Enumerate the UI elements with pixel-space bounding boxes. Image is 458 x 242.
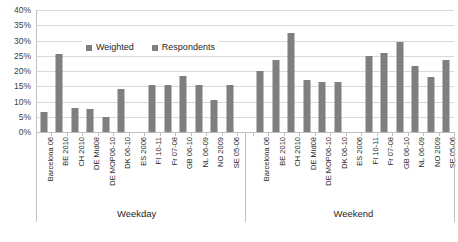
legend-label-respondents: Respondents xyxy=(162,43,215,52)
x-axis-category-label: BE 2010 xyxy=(279,135,287,203)
legend-swatch-respondents xyxy=(152,45,158,51)
bar xyxy=(288,33,295,132)
bar xyxy=(118,89,125,132)
bar xyxy=(365,56,372,132)
bar xyxy=(427,77,434,132)
bar-slot xyxy=(315,10,330,132)
x-axis-category-label: FI 10-11 xyxy=(372,135,380,203)
y-axis-tick-label: 40% xyxy=(14,6,31,14)
bar-slot xyxy=(113,10,128,132)
x-axis-category-label: DK 06-10 xyxy=(341,135,349,203)
bar-slot xyxy=(175,10,190,132)
y-axis-tick-label: 25% xyxy=(14,52,31,60)
x-axis-category-label: GB 06-10 xyxy=(403,135,411,203)
y-axis-line xyxy=(36,10,37,133)
bar xyxy=(226,85,233,132)
bar-slot xyxy=(346,10,361,132)
bar-slot xyxy=(268,10,283,132)
bar-slot xyxy=(408,10,423,132)
x-axis-group-label: Weekday xyxy=(77,208,197,219)
bar-slot xyxy=(36,10,51,132)
bar-slot xyxy=(361,10,376,132)
group-separator xyxy=(36,132,37,222)
bar-slot xyxy=(206,10,221,132)
y-axis-tick-label: 35% xyxy=(14,21,31,29)
y-axis-tick-label: 5% xyxy=(19,113,31,121)
plot-area xyxy=(36,10,454,132)
bar-slot xyxy=(392,10,407,132)
x-axis-category-label: NL 06-09 xyxy=(202,135,210,203)
bar-chart: 0%5%10%15%20%25%30%35%40% Barcelona 06BE… xyxy=(0,0,458,242)
bar xyxy=(149,85,156,132)
bar xyxy=(443,60,450,132)
x-axis-category-label: DE Mid08 xyxy=(310,135,318,203)
bar xyxy=(381,53,388,132)
bar xyxy=(211,100,218,132)
bar xyxy=(195,85,202,132)
bar-slot xyxy=(144,10,159,132)
y-axis-tick-label: 10% xyxy=(14,98,31,106)
x-axis-tick xyxy=(253,132,254,136)
y-axis-tick-label: 30% xyxy=(14,37,31,45)
x-axis-category-label: DE Mid08 xyxy=(93,135,101,203)
y-axis-tick-label: 20% xyxy=(14,67,31,75)
bar-slot xyxy=(377,10,392,132)
x-axis-category-label: NL 06-09 xyxy=(418,135,426,203)
x-axis-category-label: Fr 07-08 xyxy=(171,135,179,203)
x-axis-category-label: ES 2006 xyxy=(356,135,364,203)
bar xyxy=(164,85,171,132)
bar xyxy=(180,76,187,132)
bar-slot xyxy=(129,10,144,132)
y-axis-tick-label: 15% xyxy=(14,82,31,90)
bar xyxy=(303,80,310,132)
y-axis-tick-label: 0% xyxy=(19,128,31,136)
bar-slot xyxy=(284,10,299,132)
bar-slot xyxy=(98,10,113,132)
bar-series xyxy=(36,10,454,132)
bar-slot xyxy=(253,10,268,132)
legend-item-weighted: Weighted xyxy=(86,43,134,52)
bar xyxy=(40,112,47,132)
bar-slot xyxy=(160,10,175,132)
bar xyxy=(71,108,78,132)
x-axis-category-label: NO 2009 xyxy=(217,135,225,203)
bar xyxy=(56,54,63,132)
bar xyxy=(87,109,94,132)
legend-swatch-weighted xyxy=(86,45,92,51)
x-axis-category-label: GB 06-10 xyxy=(186,135,194,203)
bar-slot xyxy=(330,10,345,132)
x-axis-category-label: Barcelona 06 xyxy=(47,135,55,203)
bar xyxy=(102,117,109,132)
bar xyxy=(257,71,264,132)
bar xyxy=(412,66,419,132)
x-axis-category-label: ES 2006 xyxy=(140,135,148,203)
x-axis-category-label: Fr 07-08 xyxy=(387,135,395,203)
x-axis-category-label: BE 2010 xyxy=(62,135,70,203)
x-axis-category-label: CH 2010 xyxy=(78,135,86,203)
x-axis-category-label: FI 10-11 xyxy=(155,135,163,203)
x-axis-group-label: Weekend xyxy=(293,208,413,219)
x-axis-category-label: NO 2009 xyxy=(434,135,442,203)
bar-slot xyxy=(191,10,206,132)
x-axis-category-label: DE MOP06-10 xyxy=(109,135,117,203)
bar-slot xyxy=(67,10,82,132)
bar xyxy=(319,82,326,132)
legend-label-weighted: Weighted xyxy=(96,43,134,52)
x-axis-category-label: Barcelona 06 xyxy=(263,135,271,203)
bar xyxy=(272,60,279,132)
group-separator xyxy=(454,132,455,222)
group-separator xyxy=(245,132,246,222)
bar xyxy=(396,42,403,132)
x-axis-category-label: DK 06-10 xyxy=(124,135,132,203)
bar-slot xyxy=(423,10,438,132)
bar-slot xyxy=(299,10,314,132)
x-axis-category-label: DE MOP06-10 xyxy=(325,135,333,203)
bar-slot xyxy=(51,10,66,132)
bar xyxy=(334,82,341,132)
bar-slot xyxy=(222,10,237,132)
x-axis-category-label: SE 05-06 xyxy=(233,135,241,203)
legend-item-respondents: Respondents xyxy=(152,43,215,52)
bar-slot xyxy=(82,10,97,132)
bar-slot xyxy=(439,10,454,132)
chart-legend: Weighted Respondents xyxy=(82,41,219,54)
